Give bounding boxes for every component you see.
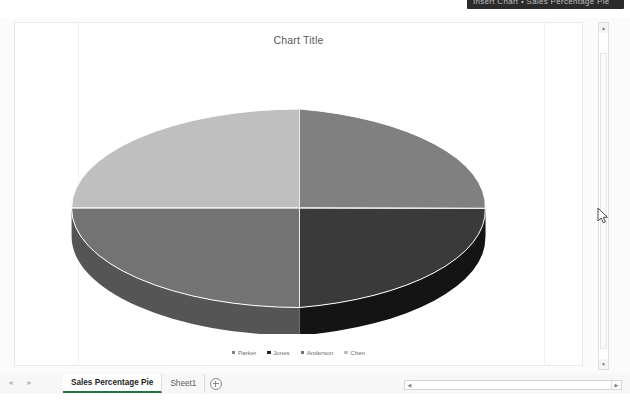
legend-label-parker: Parker	[238, 349, 256, 356]
legend-item-jones[interactable]: Jones	[267, 349, 290, 356]
chart-title: Chart Title	[15, 34, 582, 46]
sheet-tab-sheet1[interactable]: Sheet1	[162, 374, 205, 393]
scroll-left-arrow-icon[interactable]: ◀	[405, 381, 414, 389]
chart-object-frame[interactable]: Chart Title	[14, 22, 583, 366]
vertical-scroll-thumb[interactable]	[600, 53, 607, 349]
sheet-tab-sales-percentage-pie[interactable]: Sales Percentage Pie	[63, 374, 162, 393]
legend-swatch-parker	[232, 351, 236, 355]
sheet-navigation-arrows[interactable]: ◂ ▸	[6, 377, 34, 389]
scroll-down-arrow-icon[interactable]: ▼	[599, 359, 608, 369]
pie-3d-svg	[15, 49, 584, 334]
legend-label-chen: Chen	[350, 349, 365, 356]
legend-swatch-jones	[267, 351, 271, 355]
legend-swatch-chen	[344, 351, 348, 355]
legend-item-parker[interactable]: Parker	[232, 349, 256, 356]
plus-circle-icon	[210, 378, 222, 390]
pie-slice-chen[interactable]	[72, 109, 300, 208]
sheet-next-arrow-icon[interactable]: ▸	[25, 377, 34, 389]
worksheet-area[interactable]: Chart Title	[0, 18, 630, 373]
scroll-up-arrow-icon[interactable]: ▲	[599, 23, 608, 33]
horizontal-scroll-thumb[interactable]	[414, 381, 611, 389]
pie-slice-parker[interactable]	[300, 109, 486, 208]
scroll-right-arrow-icon[interactable]: ▶	[611, 381, 621, 389]
legend-label-anderson: Anderson	[307, 349, 334, 356]
legend-label-jones: Jones	[273, 349, 290, 356]
sheet-prev-arrow-icon[interactable]: ◂	[6, 377, 15, 389]
pie-3d-stage	[15, 49, 584, 334]
pie-chart-plot-area[interactable]	[15, 49, 584, 334]
horizontal-scrollbar[interactable]: ◀ ▶	[404, 380, 622, 390]
legend-item-chen[interactable]: Chen	[344, 349, 365, 356]
add-sheet-button[interactable]	[205, 374, 227, 393]
vertical-scrollbar[interactable]: ▲ ▼	[598, 22, 609, 370]
vertical-scroll-track[interactable]	[599, 33, 608, 359]
pie-slice-anderson[interactable]	[72, 208, 300, 308]
chart-legend[interactable]: Parker Jones Anderson Chen	[15, 349, 582, 356]
legend-swatch-anderson	[301, 351, 305, 355]
legend-item-anderson[interactable]: Anderson	[301, 349, 334, 356]
sheet-tab-list[interactable]: Sales Percentage Pie Sheet1	[63, 374, 227, 393]
top-notification-text: Insert Chart • Sales Percentage Pie	[473, 0, 609, 6]
top-notification-strip[interactable]: Insert Chart • Sales Percentage Pie	[467, 0, 624, 9]
